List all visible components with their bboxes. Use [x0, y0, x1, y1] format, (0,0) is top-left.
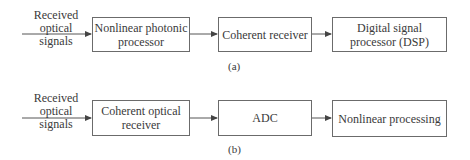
block-a3-line2: processor (DSP): [350, 35, 429, 49]
input-label-a-line1: Received optical: [18, 9, 94, 35]
adc-block: ADC: [218, 100, 312, 136]
input-label-a: Received optical signals: [18, 9, 94, 48]
input-label-b: Received optical signals: [18, 92, 94, 131]
block-b1-line2: receiver: [101, 118, 181, 132]
nonlinear-photonic-processor-block: Nonlinear photonicprocessor: [92, 17, 190, 52]
block-a3-line1: Digital signal: [350, 21, 429, 35]
coherent-receiver-block: Coherent receiver: [218, 17, 312, 52]
caption-a: (a): [228, 60, 240, 72]
nonlinear-processing-block: Nonlinear processing: [332, 100, 447, 137]
dsp-block: Digital signalprocessor (DSP): [332, 17, 447, 52]
input-label-b-line2: signals: [18, 118, 94, 131]
block-b3-line1: Nonlinear processing: [338, 112, 440, 126]
input-label-b-line1: Received optical: [18, 92, 94, 118]
block-b2-line1: ADC: [252, 111, 277, 125]
block-a2-line1: Coherent receiver: [222, 28, 308, 42]
block-a1-line2: processor: [95, 35, 188, 49]
block-a1-line1: Nonlinear photonic: [95, 21, 188, 35]
coherent-optical-receiver-block: Coherent opticalreceiver: [92, 100, 190, 136]
caption-b: (b): [228, 143, 241, 155]
input-label-a-line2: signals: [18, 35, 94, 48]
block-b1-line1: Coherent optical: [101, 104, 181, 118]
